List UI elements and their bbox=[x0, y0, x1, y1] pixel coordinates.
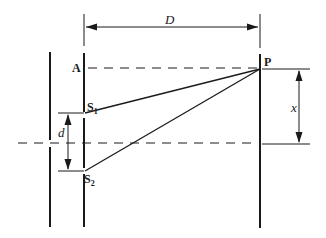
label-S1-sub: 1 bbox=[94, 107, 98, 116]
double-slit-diagram: A S1 S2 P D d x bbox=[0, 0, 326, 238]
ray-S2-to-P bbox=[85, 69, 260, 171]
label-P: P bbox=[264, 55, 271, 69]
label-d: d bbox=[58, 125, 65, 140]
label-S2-sub: 2 bbox=[91, 179, 95, 188]
slit-separation-d-dimension bbox=[58, 113, 84, 171]
label-S1: S1 bbox=[87, 100, 98, 116]
label-D: D bbox=[164, 12, 175, 27]
label-S2: S2 bbox=[84, 172, 95, 188]
ray-S1-to-P bbox=[85, 69, 260, 113]
position-x-dimension bbox=[262, 69, 310, 144]
label-x: x bbox=[290, 100, 297, 115]
label-A: A bbox=[72, 61, 81, 75]
